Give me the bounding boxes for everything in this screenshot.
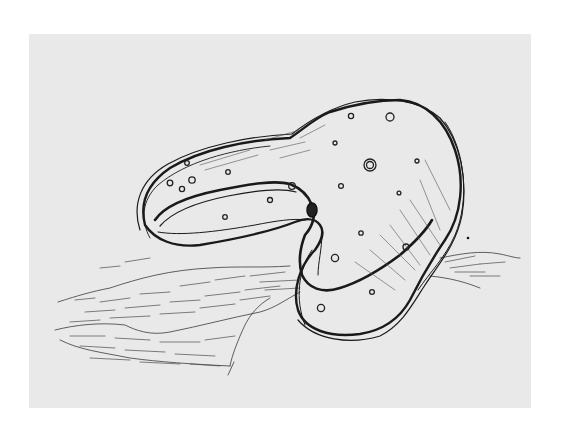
rock-form xyxy=(137,99,464,340)
ground-slab xyxy=(55,252,520,375)
sketch-drawing xyxy=(0,0,562,438)
